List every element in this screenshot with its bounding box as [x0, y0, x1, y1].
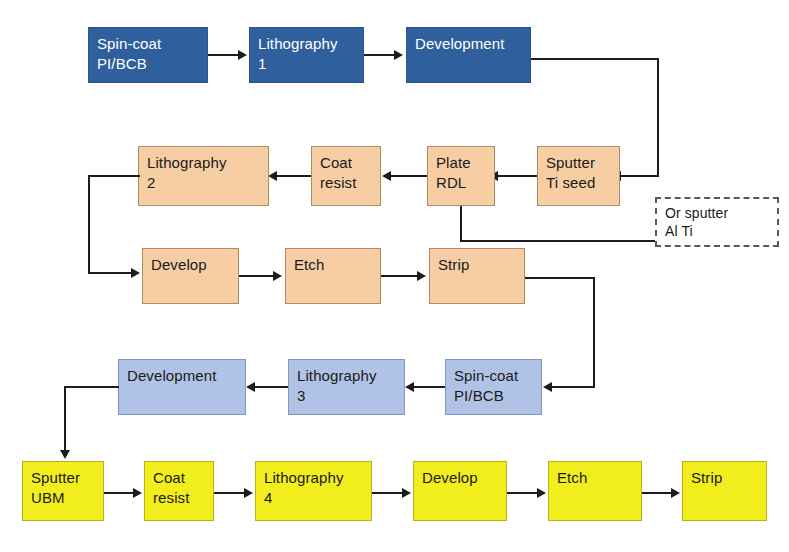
connector-annotation-horizontal	[460, 240, 657, 242]
connector-development1-right	[531, 58, 659, 60]
process-node-lithography-1[interactable]: Lithography 1	[249, 27, 364, 83]
connector-coatresist-to-platerdl	[389, 175, 427, 177]
connector-into-sputter-ti-seed	[620, 175, 659, 177]
arrowhead-to-spin-coat-2	[543, 382, 552, 392]
process-node-sputter-ti-seed[interactable]: Sputter Ti seed	[537, 146, 620, 206]
connector-litho1-to-development1	[364, 54, 395, 56]
arrowhead-to-etch-5	[537, 488, 546, 498]
process-node-etch-3[interactable]: Etch	[285, 248, 381, 304]
connector-litho2-down	[88, 175, 90, 274]
process-node-coat-resist-2[interactable]: Coat resist	[311, 146, 381, 206]
arrowhead-to-develop-5	[402, 488, 411, 498]
process-node-spin-coat-2[interactable]: Spin-coat PI/BCB	[445, 359, 542, 415]
annotation-or-sputter-al-ti: Or sputter Al Ti	[655, 197, 779, 247]
process-node-development-1[interactable]: Development	[406, 27, 531, 83]
connector-strip3-right	[525, 277, 595, 279]
connector-spincoat2-to-litho3	[412, 386, 445, 388]
connector-development1-down	[657, 58, 659, 177]
connector-develop3-to-etch3	[239, 275, 274, 277]
connector-litho4-to-develop5	[372, 492, 403, 494]
arrowhead-to-etch-3	[273, 271, 282, 281]
process-node-develop-5[interactable]: Develop	[413, 461, 507, 521]
arrowhead-to-strip-3	[417, 271, 426, 281]
connector-spincoat1-to-litho1	[208, 54, 239, 56]
connector-development2-left	[64, 386, 119, 388]
process-node-etch-5[interactable]: Etch	[548, 461, 642, 521]
process-node-lithography-3[interactable]: Lithography 3	[288, 359, 405, 415]
connector-strip3-down	[593, 277, 595, 388]
connector-litho3-to-development2	[254, 386, 288, 388]
connector-litho2-left	[88, 175, 140, 177]
arrowhead-to-sputter-ubm	[60, 450, 70, 459]
connector-platerdl-down-to-annotation	[460, 206, 462, 242]
connector-development2-down	[64, 386, 66, 452]
connector-sputterti-to-platerdl	[496, 175, 537, 177]
process-node-lithography-2[interactable]: Lithography 2	[138, 146, 269, 206]
arrowhead-to-coat-resist-2	[382, 171, 391, 181]
connector-coatresist5-to-litho4	[214, 492, 245, 494]
process-node-coat-resist-5[interactable]: Coat resist	[144, 461, 214, 521]
arrowhead-to-lithography-4	[244, 488, 253, 498]
arrowhead-to-strip-5	[671, 488, 680, 498]
connector-ubm-to-coatresist5	[104, 492, 134, 494]
connector-into-spin-coat-2	[551, 386, 595, 388]
flowchart-canvas: Spin-coat PI/BCB Lithography 1 Developme…	[0, 0, 789, 552]
connector-etch3-to-strip3	[381, 275, 418, 277]
connector-into-develop-3	[88, 272, 133, 274]
arrowhead-to-develop-3	[131, 268, 140, 278]
connector-coatresist-to-litho2	[276, 175, 311, 177]
figure-caption	[14, 536, 774, 550]
process-node-develop-3[interactable]: Develop	[142, 248, 239, 304]
process-node-sputter-ubm[interactable]: Sputter UBM	[22, 461, 104, 521]
arrowhead-to-lithography-2	[268, 171, 277, 181]
arrowhead-to-coat-resist-5	[133, 488, 142, 498]
process-node-plate-rdl[interactable]: Plate RDL	[427, 146, 495, 206]
process-node-development-2[interactable]: Development	[118, 359, 246, 415]
process-node-strip-3[interactable]: Strip	[429, 248, 525, 304]
connector-develop5-to-etch5	[507, 492, 538, 494]
arrowhead-to-development-1	[394, 50, 403, 60]
connector-etch5-to-strip5	[642, 492, 672, 494]
process-node-spin-coat-1[interactable]: Spin-coat PI/BCB	[88, 27, 208, 83]
process-node-strip-5[interactable]: Strip	[682, 461, 767, 521]
arrowhead-to-development-2	[246, 382, 255, 392]
arrowhead-to-lithography-3	[405, 382, 414, 392]
arrowhead-to-lithography-1	[238, 50, 247, 60]
process-node-lithography-4[interactable]: Lithography 4	[255, 461, 372, 521]
